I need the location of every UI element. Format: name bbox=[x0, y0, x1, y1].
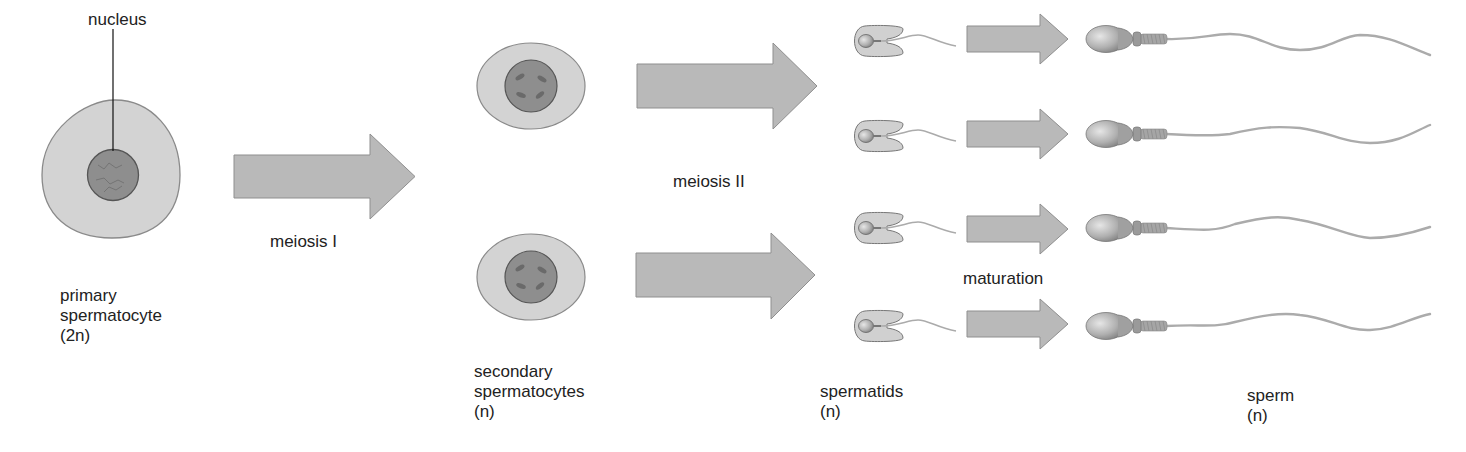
secondary-label-line-3: (n) bbox=[474, 402, 585, 422]
diagram-canvas bbox=[0, 0, 1466, 452]
secondary-label-line-2: spermatocytes bbox=[474, 382, 585, 402]
spermatid-3 bbox=[855, 212, 957, 243]
primary-spermatocyte-nucleus bbox=[88, 150, 139, 201]
primary-label-line-1: primary bbox=[60, 286, 162, 306]
spermatids-label-line-2: (n) bbox=[820, 402, 903, 422]
sperm-label-line-1: sperm bbox=[1247, 386, 1294, 406]
maturation-arrow-1 bbox=[967, 14, 1068, 64]
sperm-4 bbox=[1086, 313, 1430, 340]
meiosis-2-arrow-bottom bbox=[636, 233, 815, 319]
maturation-arrow-4 bbox=[967, 299, 1068, 349]
sperm-tail bbox=[1166, 314, 1430, 330]
maturation-label: maturation bbox=[963, 269, 1043, 289]
spermatid-head bbox=[859, 130, 874, 143]
spermatid-head bbox=[859, 320, 874, 333]
spermatid-4 bbox=[855, 310, 957, 341]
nucleus bbox=[505, 60, 557, 112]
spermatid-head bbox=[859, 35, 874, 48]
primary-label-line-3: (2n) bbox=[60, 326, 162, 346]
secondary-spermatocytes bbox=[477, 43, 585, 320]
spermatids-label: spermatids (n) bbox=[820, 382, 903, 422]
secondary-spermatocyte-1 bbox=[477, 43, 585, 129]
spermatids-label-line-1: spermatids bbox=[820, 382, 903, 402]
spermatids-group bbox=[855, 25, 957, 341]
sperm-3 bbox=[1086, 215, 1430, 242]
meiosis-2-label: meiosis II bbox=[673, 172, 745, 192]
maturation-arrow-3 bbox=[967, 204, 1068, 254]
sperm-neck bbox=[1133, 32, 1141, 46]
sperm-acrosome-cap bbox=[1118, 28, 1133, 50]
secondary-label-line-1: secondary bbox=[474, 362, 585, 382]
sperm-acrosome-cap bbox=[1118, 217, 1133, 239]
spermatogenesis-diagram: nucleus primary spermatocyte (2n) meiosi… bbox=[0, 0, 1466, 452]
sperm-group bbox=[1086, 26, 1430, 340]
sperm-tail bbox=[1166, 125, 1430, 143]
maturation-arrow-2 bbox=[967, 109, 1068, 159]
sperm-2 bbox=[1086, 121, 1430, 148]
sperm-1 bbox=[1086, 26, 1430, 56]
sperm-tail bbox=[1166, 217, 1430, 238]
meiosis-1-arrow bbox=[234, 134, 415, 219]
sperm-acrosome-cap bbox=[1118, 123, 1133, 145]
secondary-spermatocyte-2 bbox=[477, 234, 585, 320]
process-arrows bbox=[234, 14, 1068, 349]
sperm-tail bbox=[1166, 34, 1430, 55]
sperm-acrosome-cap bbox=[1118, 315, 1133, 337]
spermatid-head bbox=[859, 222, 874, 235]
sperm-neck bbox=[1133, 221, 1141, 235]
secondary-spermatocytes-label: secondary spermatocytes (n) bbox=[474, 362, 585, 422]
spermatid-1 bbox=[855, 25, 957, 56]
meiosis-1-label: meiosis I bbox=[270, 232, 337, 252]
sperm-label-line-2: (n) bbox=[1247, 406, 1294, 426]
nucleus-label: nucleus bbox=[88, 10, 147, 30]
sperm-neck bbox=[1133, 319, 1141, 333]
primary-spermatocyte bbox=[42, 29, 180, 238]
primary-spermatocyte-label: primary spermatocyte (2n) bbox=[60, 286, 162, 346]
nucleus bbox=[505, 251, 557, 303]
meiosis-2-arrow-top bbox=[637, 43, 817, 129]
spermatid-2 bbox=[855, 120, 957, 151]
sperm-neck bbox=[1133, 127, 1141, 141]
primary-label-line-2: spermatocyte bbox=[60, 306, 162, 326]
sperm-label: sperm (n) bbox=[1247, 386, 1294, 426]
